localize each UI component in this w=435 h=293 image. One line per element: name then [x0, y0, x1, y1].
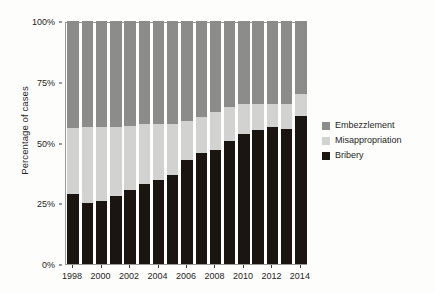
legend-swatch-icon	[322, 152, 330, 160]
x-tick-mark	[214, 265, 215, 268]
bar-segment	[181, 121, 192, 160]
bar-segment	[267, 104, 278, 127]
bar-column	[281, 23, 292, 264]
bar-segment	[167, 175, 178, 264]
bar-segment	[124, 190, 135, 264]
bar-segment	[82, 127, 93, 204]
x-tick-mark	[129, 265, 130, 268]
y-tick-mark	[59, 265, 62, 266]
bar-segment	[295, 116, 306, 264]
bar-column	[82, 23, 93, 264]
x-tick-label: 2002	[119, 271, 139, 281]
y-tick-mark	[59, 82, 62, 83]
plot-area	[65, 22, 307, 265]
bar-segment	[210, 150, 221, 264]
y-tick-mark	[59, 22, 62, 23]
x-tick-mark	[158, 265, 159, 268]
bar-segment	[267, 21, 278, 104]
bar-segment	[252, 21, 263, 104]
bar-segment	[238, 21, 249, 104]
x-axis-tick-labels: 199820002002200420062008201020122014	[65, 265, 307, 293]
bar-column	[295, 23, 306, 264]
bar-segment	[210, 112, 221, 150]
x-tick-mark	[243, 265, 244, 268]
bar-segment	[224, 21, 235, 107]
bar-segment	[110, 21, 121, 127]
bar-segment	[238, 134, 249, 264]
bar-segment	[252, 130, 263, 264]
bar-series-layer	[66, 23, 306, 264]
y-tick-label: 0%	[42, 260, 55, 270]
bar-segment	[96, 127, 107, 201]
y-tick-label: 75%	[37, 78, 55, 88]
bar-segment	[153, 180, 164, 264]
legend-item: Bribery	[322, 148, 434, 163]
bar-segment	[238, 104, 249, 134]
bar-segment	[281, 104, 292, 130]
bar-segment	[181, 21, 192, 121]
legend-item-label: Bribery	[335, 151, 364, 160]
bar-column	[267, 23, 278, 264]
bar-column	[238, 23, 249, 264]
bar-column	[181, 23, 192, 264]
legend-item-label: Misappropriation	[335, 136, 402, 145]
x-tick-mark	[72, 265, 73, 268]
bar-segment	[153, 124, 164, 180]
legend-swatch-icon	[322, 137, 330, 145]
x-tick-label: 2008	[204, 271, 224, 281]
bar-segment	[267, 127, 278, 264]
bar-segment	[224, 107, 235, 141]
x-tick-label: 2006	[176, 271, 196, 281]
bar-segment	[82, 21, 93, 127]
legend-item-label: Embezzlement	[335, 121, 395, 130]
bar-column	[139, 23, 150, 264]
bar-segment	[224, 141, 235, 264]
bar-segment	[67, 21, 78, 128]
legend-swatch-icon	[322, 122, 330, 130]
bar-segment	[67, 128, 78, 194]
bar-segment	[196, 117, 207, 153]
bar-column	[153, 23, 164, 264]
bar-column	[67, 23, 78, 264]
bar-column	[167, 23, 178, 264]
bar-segment	[82, 203, 93, 264]
bar-segment	[252, 104, 263, 131]
bar-segment	[139, 21, 150, 124]
legend-item: Misappropriation	[322, 133, 434, 148]
x-tick-label: 2014	[290, 271, 310, 281]
x-tick-mark	[101, 265, 102, 268]
chart-figure: Percentage of cases 0%25%50%75%100% 1998…	[0, 0, 435, 293]
bar-segment	[153, 21, 164, 124]
bar-segment	[124, 126, 135, 190]
bar-column	[110, 23, 121, 264]
bar-segment	[281, 129, 292, 264]
bar-segment	[210, 21, 221, 112]
x-tick-mark	[186, 265, 187, 268]
x-tick-mark	[271, 265, 272, 268]
bar-segment	[110, 196, 121, 264]
bar-segment	[110, 127, 121, 196]
x-tick-label: 2012	[261, 271, 281, 281]
bar-column	[252, 23, 263, 264]
bar-segment	[181, 160, 192, 264]
legend-item: Embezzlement	[322, 118, 434, 133]
bar-segment	[139, 124, 150, 184]
bar-column	[196, 23, 207, 264]
bar-segment	[281, 21, 292, 104]
x-tick-label: 2000	[91, 271, 111, 281]
x-tick-label: 2010	[233, 271, 253, 281]
y-axis-tick-labels: 0%25%50%75%100%	[0, 0, 66, 293]
y-tick-label: 50%	[37, 139, 55, 149]
bar-segment	[295, 94, 306, 116]
x-tick-mark	[300, 265, 301, 268]
bar-segment	[96, 201, 107, 264]
bar-segment	[167, 21, 178, 124]
y-tick-label: 25%	[37, 199, 55, 209]
bar-column	[224, 23, 235, 264]
bar-segment	[196, 153, 207, 264]
x-tick-label: 1998	[62, 271, 82, 281]
y-tick-mark	[59, 204, 62, 205]
chart-legend: EmbezzlementMisappropriationBribery	[322, 118, 434, 163]
bar-segment	[196, 21, 207, 117]
bar-segment	[124, 21, 135, 125]
